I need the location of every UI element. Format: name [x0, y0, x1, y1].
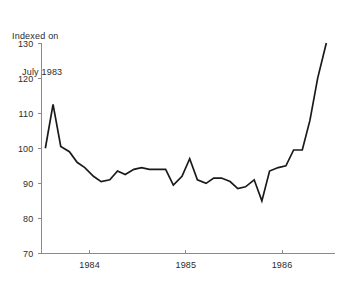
chart-series-group — [45, 43, 326, 201]
x-axis-ticks: 198419851986 — [79, 250, 292, 270]
chart-axes — [42, 43, 336, 254]
chart-container: Indexed on July 1983 708090100110120130 … — [0, 0, 341, 283]
x-axis-tick-label: 1986 — [272, 260, 293, 270]
y-axis-tick-label: 80 — [23, 214, 33, 224]
x-axis-tick-label: 1985 — [175, 260, 196, 270]
line-chart-plot: 708090100110120130 198419851986 — [0, 0, 341, 283]
x-axis-tick-label: 1984 — [79, 260, 100, 270]
y-axis-tick-label: 90 — [23, 179, 33, 189]
y-axis-tick-label: 70 — [23, 249, 33, 259]
y-axis-tick-label: 130 — [18, 39, 34, 49]
y-axis-tick-label: 120 — [18, 74, 34, 84]
data-series-line — [45, 43, 326, 201]
y-axis-ticks: 708090100110120130 — [18, 39, 42, 260]
y-axis-tick-label: 110 — [19, 109, 34, 119]
y-axis-tick-label: 100 — [18, 144, 34, 154]
